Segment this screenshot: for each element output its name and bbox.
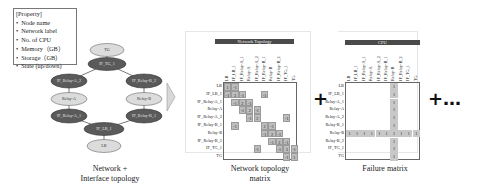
row-label: Relay-B_2 (325, 137, 344, 145)
column-label: Relay-B (268, 67, 273, 81)
matrix-cell: -1 (268, 138, 275, 146)
svg-text:IF_TG_1: IF_TG_1 (99, 61, 115, 66)
matrix-cell: -1 (246, 114, 253, 122)
node-if-relay-b-1: IF_Relay-B_1 (126, 109, 162, 123)
column-label: IF_TG_1 (283, 65, 288, 81)
node-if-relay-b-2: IF_Relay-B_2 (126, 74, 162, 88)
topology-caption: Network topology matrix (210, 164, 310, 184)
failure-cell: 1 (390, 106, 397, 114)
svg-text:IF_Relay-A_1: IF_Relay-A_1 (57, 113, 81, 118)
failure-cell: 1 (390, 122, 397, 130)
node-tg: TG (90, 44, 124, 57)
graph-caption-line2: Interface topology (60, 174, 160, 184)
svg-text:Relay-B: Relay-B (137, 96, 151, 101)
row-label: TG (216, 152, 222, 160)
failure-cell: 1 (390, 138, 397, 146)
column-label: IF_Relay-B_1 (261, 56, 266, 81)
matrix-cell: -1 (239, 91, 246, 99)
failure-matrix-grid: 1111111111111111111 (345, 82, 420, 160)
svg-text:LB: LB (101, 143, 107, 148)
property-item: Memory（GB） (16, 45, 74, 54)
failure-cell: 1 (390, 83, 397, 91)
matrix-cell: -1 (276, 145, 283, 153)
failure-cell: 1 (390, 130, 397, 138)
failure-cell: 1 (405, 130, 412, 138)
failure-cell: 1 (398, 130, 405, 138)
column-label: LB (224, 76, 229, 82)
column-label: IF_Relay-A_2 (254, 56, 259, 81)
failure-cell: 1 (346, 130, 353, 138)
failure-cell: 1 (368, 130, 375, 138)
failure-cell: 1 (383, 130, 390, 138)
matrix-cell: -1 (291, 145, 298, 153)
matrix-cell: 3 (283, 145, 290, 153)
matrix-cell: -1 (246, 99, 253, 107)
row-label: IF_Relay-B_1 (197, 121, 222, 129)
matrix-cell: -1 (283, 138, 290, 146)
topology-caption-line1: Network topology (210, 164, 310, 174)
matrix-cell: -1 (239, 106, 246, 114)
failure-cell: 1 (390, 145, 397, 153)
property-item: No. of CPU (16, 36, 74, 45)
graph-caption-line1: Network + (60, 164, 160, 174)
failure-cell: 1 (353, 130, 360, 138)
svg-text:IF_LB_1: IF_LB_1 (96, 126, 111, 131)
row-label: LB (217, 82, 223, 90)
failure-cell: 1 (390, 114, 397, 122)
matrix-cell: -1 (261, 91, 268, 99)
failure-cell: 1 (390, 91, 397, 99)
failure-cell: 1 (413, 130, 420, 138)
matrix-cell: -1 (231, 122, 238, 130)
row-label: Relay-A_1 (325, 98, 344, 106)
failure-matrix-title: CPU (345, 40, 420, 45)
graph-caption: Network + Interface topology (60, 164, 160, 184)
row-label: IF_LB_1 (206, 90, 222, 98)
node-if-tg-1: IF_TG_1 (88, 58, 126, 71)
matrix-cell: -1 (268, 122, 275, 130)
row-label: Relay-B (330, 129, 344, 137)
row-label: LB (339, 82, 345, 90)
column-label: IF_LB_1 (353, 65, 358, 81)
column-label: IF_Relay-B_2 (276, 56, 281, 81)
column-label: IF_LB_1 (231, 65, 236, 81)
svg-text:Relay-A: Relay-A (62, 96, 76, 101)
row-label: Relay-A_2 (325, 113, 344, 121)
row-label: IF_LB_1 (328, 90, 344, 98)
column-label: IF_Relay-A_1 (239, 56, 244, 81)
plus-more-operator: +… (428, 88, 461, 109)
svg-text:IF_Relay-B_2: IF_Relay-B_2 (132, 78, 156, 83)
matrix-cell: -1 (283, 114, 290, 122)
matrix-cell: 2 (254, 114, 261, 122)
matrix-cell: 2 (261, 122, 268, 130)
column-label: IF_Relay-B_2 (398, 56, 403, 81)
column-label: Relay-A (246, 66, 251, 81)
node-if-lb-1: IF_LB_1 (84, 123, 124, 136)
arrow-right-icon (166, 82, 176, 112)
row-label: TG (338, 152, 344, 160)
property-title: [Property] (16, 10, 74, 19)
matrix-cell: 2 (276, 138, 283, 146)
column-label: IF_Relay-A_1 (361, 56, 366, 81)
row-label: Relay-B_1 (325, 121, 344, 129)
node-if-relay-a-2: IF_Relay-A_2 (51, 74, 87, 88)
column-label: Relay-A (368, 66, 373, 81)
failure-cell: 1 (376, 130, 383, 138)
node-relay-a: Relay-A (51, 93, 87, 106)
node-if-relay-a-1: IF_Relay-A_1 (51, 109, 87, 123)
row-label: IF_Relay-A_2 (197, 113, 222, 121)
property-item: Network label (16, 27, 74, 36)
row-label: IF_Relay-B_2 (197, 137, 222, 145)
column-label: TG (413, 75, 418, 81)
column-label: IF_Relay-A_2 (376, 56, 381, 81)
node-relay-b: Relay-B (126, 93, 162, 106)
svg-text:TG: TG (104, 47, 110, 52)
matrix-cell: -1 (231, 99, 238, 107)
matrix-cell: 3 (231, 91, 238, 99)
row-label: Relay-B (208, 129, 222, 137)
failure-cell: 1 (361, 130, 368, 138)
matrix-cell: 2 (239, 99, 246, 107)
row-label: IF_Relay-A_1 (197, 98, 222, 106)
matrix-cell: -1 (254, 145, 261, 153)
property-item: Node name (16, 19, 74, 28)
row-label: IF_TG_1 (206, 144, 222, 152)
